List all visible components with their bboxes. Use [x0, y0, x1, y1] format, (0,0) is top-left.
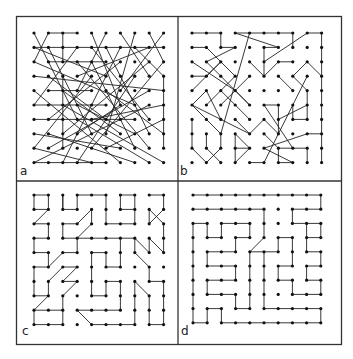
grid-node: [277, 279, 280, 282]
grid-node: [162, 208, 165, 211]
grid-node: [320, 89, 323, 92]
path-segment: [135, 238, 149, 252]
path-segment: [206, 47, 235, 61]
grid-node: [219, 118, 222, 121]
grid-node: [32, 89, 35, 92]
grid-node: [148, 89, 151, 92]
grid-node: [32, 251, 35, 254]
grid-node: [90, 222, 93, 225]
grid-node: [190, 60, 193, 63]
grid-node: [248, 307, 251, 310]
grid-node: [220, 321, 223, 324]
grid-node: [104, 161, 107, 164]
grid-node: [76, 46, 79, 49]
grid-node: [206, 193, 209, 196]
grid-node: [90, 265, 93, 268]
grid-node: [90, 89, 93, 92]
path-segment: [192, 91, 206, 105]
grid-node: [162, 280, 165, 283]
grid-node: [190, 161, 193, 164]
grid-node: [248, 293, 251, 296]
grid-node: [248, 103, 251, 106]
grid-node: [206, 236, 209, 239]
grid-node: [47, 280, 50, 283]
grid-node: [119, 237, 122, 240]
grid-node: [133, 103, 136, 106]
grid-node: [220, 293, 223, 296]
grid-node: [277, 75, 280, 78]
grid-node: [119, 222, 122, 225]
grid-node: [104, 89, 107, 92]
grid-node: [90, 147, 93, 150]
grid-node: [47, 103, 50, 106]
grid-node: [234, 264, 237, 267]
grid-node: [47, 60, 50, 63]
grid-node: [133, 89, 136, 92]
grid-node: [76, 251, 79, 254]
grid-node: [219, 60, 222, 63]
grid-node: [277, 222, 280, 225]
grid-node: [319, 222, 322, 225]
path-segment: [206, 119, 220, 133]
grid-node: [306, 31, 309, 34]
grid-node: [61, 237, 64, 240]
grid-node: [76, 60, 79, 63]
grid-node: [119, 75, 122, 78]
grid-node: [291, 103, 294, 106]
grid-node: [104, 118, 107, 121]
grid-node: [262, 279, 265, 282]
grid-node: [306, 89, 309, 92]
grid-node: [220, 264, 223, 267]
grid-node: [234, 250, 237, 253]
grid-node: [248, 147, 251, 150]
path-segment: [63, 267, 77, 281]
grid-node: [90, 323, 93, 326]
grid-node: [90, 280, 93, 283]
path-segment: [48, 253, 62, 267]
grid-node: [148, 31, 151, 34]
grid-node: [76, 132, 79, 135]
grid-node: [320, 75, 323, 78]
grid-node: [205, 89, 208, 92]
grid-node: [148, 251, 151, 254]
grid-node: [262, 222, 265, 225]
grid-node: [61, 132, 64, 135]
grid-node: [248, 236, 251, 239]
grid-node: [90, 132, 93, 135]
grid-node: [220, 279, 223, 282]
grid-node: [248, 60, 251, 63]
grid-node: [191, 193, 194, 196]
grid-node: [119, 103, 122, 106]
path-segment: [264, 134, 307, 148]
grid-node: [104, 60, 107, 63]
grid-node: [220, 307, 223, 310]
path-segment: [206, 91, 220, 120]
panel-label-a: a: [20, 164, 27, 178]
grid-node: [277, 118, 280, 121]
grid-node: [47, 75, 50, 78]
grid-node: [61, 280, 64, 283]
path-segment: [264, 119, 278, 133]
path-segment: [34, 296, 48, 310]
grid-node: [61, 323, 64, 326]
grid-node: [148, 323, 151, 326]
path-segment: [278, 76, 292, 90]
grid-node: [32, 265, 35, 268]
grid-node: [291, 118, 294, 121]
grid-node: [234, 75, 237, 78]
grid-node: [32, 161, 35, 164]
grid-node: [191, 293, 194, 296]
grid-node: [262, 236, 265, 239]
grid-node: [262, 321, 265, 324]
path-segment: [192, 148, 206, 162]
grid-node: [319, 264, 322, 267]
grid-node: [205, 132, 208, 135]
grid-node: [234, 147, 237, 150]
grid-node: [47, 208, 50, 211]
grid-node: [262, 60, 265, 63]
grid-node: [32, 237, 35, 240]
grid-node: [90, 46, 93, 49]
grid-node: [190, 103, 193, 106]
grid-node: [305, 193, 308, 196]
grid-node: [206, 264, 209, 267]
